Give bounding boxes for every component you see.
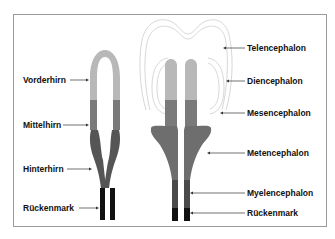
diencephalon-right — [185, 59, 197, 100]
label-myelencephalon: Myelencephalon — [247, 188, 313, 198]
label-mesencephalon: Mesencephalon — [247, 108, 311, 118]
diencephalon-left — [165, 59, 177, 100]
rueckenmark-right-shape-2 — [184, 208, 190, 221]
diencephalon-outline-right-inner — [208, 63, 219, 109]
rueckenmark-left-shape — [100, 188, 105, 220]
rueckenmark-left-shape-2 — [110, 188, 115, 220]
label-diencephalon: Diencephalon — [247, 76, 303, 86]
label-metencephalon: Metencephalon — [247, 148, 309, 158]
vorderhirn-shape — [90, 50, 120, 100]
five-vesicle-brain — [140, 20, 232, 221]
mittelhirn-right — [113, 100, 120, 130]
label-rueckenmark-right: Rückenmark — [247, 208, 298, 218]
label-rueckenmark-left: Rückenmark — [23, 203, 74, 213]
myelencephalon-right — [184, 180, 190, 208]
metencephalon-right — [184, 126, 211, 180]
diencephalon-outline-right — [208, 58, 224, 114]
label-hinterhirn: Hinterhirn — [23, 164, 64, 174]
hinterhirn-left — [90, 130, 106, 188]
mittelhirn-left — [90, 100, 97, 130]
hinterhirn-right — [104, 130, 120, 188]
mesencephalon-right — [185, 100, 197, 128]
myelencephalon-left — [172, 180, 178, 208]
metencephalon-left — [151, 126, 178, 180]
label-telencephalon: Telencephalon — [247, 43, 306, 53]
three-vesicle-brain — [90, 50, 120, 220]
mesencephalon-left — [165, 100, 177, 128]
label-vorderhirn: Vorderhirn — [23, 75, 66, 85]
label-mittelhirn: Mittelhirn — [23, 120, 61, 130]
rueckenmark-right-shape — [172, 208, 178, 221]
